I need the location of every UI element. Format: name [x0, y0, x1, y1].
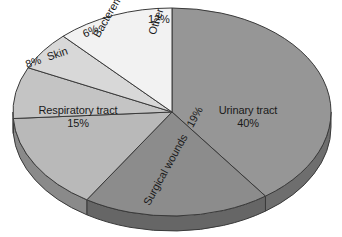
slice-label-urinary-tract-name: Urinary tract — [206, 104, 290, 117]
slice-label-respiratory-tract-percent: 15% — [22, 117, 134, 130]
slice-label-urinary-tract-percent: 40% — [206, 117, 290, 130]
pie-chart: Urinary tract 40% Respiratory tract 15% … — [0, 0, 342, 237]
slice-label-respiratory-tract-name: Respiratory tract — [22, 104, 134, 117]
slice-label-urinary-tract: Urinary tract 40% — [206, 104, 290, 130]
slice-label-respiratory-tract: Respiratory tract 15% — [22, 104, 134, 130]
